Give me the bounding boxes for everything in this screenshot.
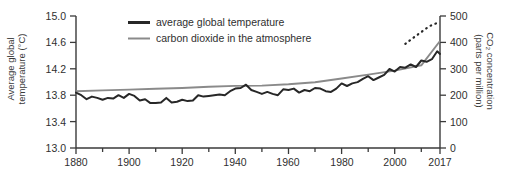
right-axis-ticks xyxy=(440,16,446,148)
x-tick-1980: 1980 xyxy=(322,156,362,168)
right-tick-300: 300 xyxy=(450,63,468,75)
x-tick-1920: 1920 xyxy=(162,156,202,168)
legend-item-temperature: average global temperature xyxy=(156,16,284,28)
x-tick-1880: 1880 xyxy=(56,156,96,168)
right-axis-title: CO₂ concentration (parts per million) xyxy=(474,6,496,136)
left-tick-13-0: 13.0 xyxy=(18,142,66,154)
co2-concentration-line xyxy=(76,41,440,91)
right-axis-title-line2: (parts per million) xyxy=(474,6,485,136)
right-tick-500: 500 xyxy=(450,10,468,22)
right-tick-400: 400 xyxy=(450,36,468,48)
average-global-temperature-line xyxy=(76,51,440,103)
x-tick-1960: 1960 xyxy=(268,156,308,168)
left-axis-title-line1: Average global xyxy=(5,9,16,129)
co2-dotted-projection xyxy=(405,22,440,44)
legend-swatches xyxy=(128,23,150,39)
right-tick-200: 200 xyxy=(450,89,468,101)
x-tick-2017: 2017 xyxy=(420,156,460,168)
x-tick-1900: 1900 xyxy=(109,156,149,168)
right-tick-100: 100 xyxy=(450,116,468,128)
x-tick-2000: 2000 xyxy=(375,156,415,168)
left-axis-title: Average global temperature (°C) xyxy=(5,9,27,129)
right-axis-title-line1: CO₂ concentration xyxy=(485,6,496,136)
legend-item-co2: carbon dioxide in the atmosphere xyxy=(156,32,311,44)
left-axis-ticks xyxy=(70,16,76,148)
climate-chart-figure: average global temperature carbon dioxid… xyxy=(0,0,510,184)
left-axis-title-line2: temperature (°C) xyxy=(16,9,27,129)
x-axis-ticks xyxy=(76,148,440,154)
right-tick-0: 0 xyxy=(450,142,456,154)
x-tick-1940: 1940 xyxy=(215,156,255,168)
